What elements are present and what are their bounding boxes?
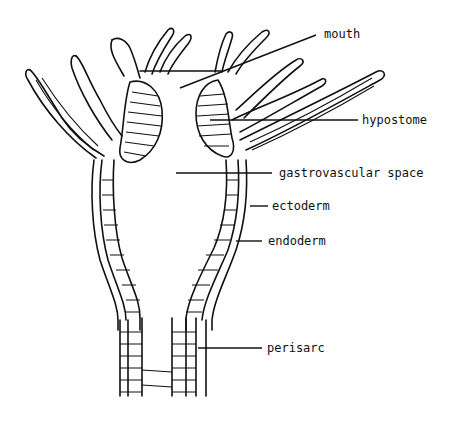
body-wall-right bbox=[186, 160, 247, 330]
body-wall-left bbox=[92, 160, 140, 330]
label-ectoderm: ectoderm bbox=[272, 199, 330, 213]
label-perisarc: perisarc bbox=[267, 341, 325, 355]
label-hypostome: hypostome bbox=[362, 113, 427, 127]
tentacle-cells bbox=[36, 78, 374, 150]
label-endoderm: endoderm bbox=[268, 234, 326, 248]
label-gastrovascular-space: gastrovascular space bbox=[279, 166, 424, 180]
tentacles bbox=[26, 28, 385, 158]
hydroid-diagram bbox=[0, 0, 458, 427]
label-mouth: mouth bbox=[324, 27, 360, 41]
perisarc-stalk bbox=[120, 318, 206, 396]
hypostome bbox=[120, 80, 234, 162]
